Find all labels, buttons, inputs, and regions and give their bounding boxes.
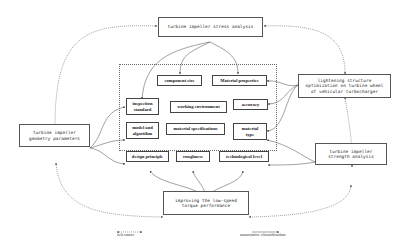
node-lightening-structure: lightening structure optimization on tur… xyxy=(298,74,391,98)
factor-inspection-standard: inspection standard xyxy=(126,98,159,115)
node-label-line: strength analysis xyxy=(328,154,374,159)
node-label-line: of vehicular turbocharger xyxy=(311,89,378,94)
factor-label: technological level xyxy=(226,154,262,160)
factor-material-type: material type xyxy=(233,123,267,140)
node-label-line: torque performance xyxy=(182,203,230,208)
factor-label-line: standard xyxy=(134,107,152,113)
factor-label-line: type xyxy=(246,132,254,138)
diagram-canvas: turbine impeller stress analysis lighten… xyxy=(0,0,407,248)
factor-label-line: algorithm xyxy=(133,131,152,137)
node-stress-analysis: turbine impeller stress analysis xyxy=(158,17,263,37)
node-geometry-parameters: turbine impeller geometry parameters xyxy=(19,124,90,147)
node-label-line: geometry parameters xyxy=(29,136,80,141)
factor-model-algorithm: model and algorithm xyxy=(126,122,159,139)
factor-material-specifications: material specifications xyxy=(166,123,225,135)
factor-working-environment: working environment xyxy=(170,101,227,113)
node-strength-analysis: turbine impeller strength analysis xyxy=(315,143,387,165)
factor-label: design principle xyxy=(132,154,163,160)
factor-label: accuracy xyxy=(242,102,260,108)
factor-component-size: component size xyxy=(157,75,202,86)
factor-label: component size xyxy=(165,78,195,84)
factor-material-properties: Material properties xyxy=(212,75,267,86)
node-label: turbine impeller stress analysis xyxy=(168,24,254,29)
factor-label: Material properties xyxy=(220,78,258,84)
node-torque-performance: improving the low-speed torque performan… xyxy=(163,191,249,215)
factor-accuracy: accuracy xyxy=(233,99,268,110)
factor-design-principle: design principle xyxy=(126,151,169,162)
factor-label: working environment xyxy=(177,104,219,110)
factor-label: roughness xyxy=(183,154,203,160)
factor-label: material specifications xyxy=(173,126,217,132)
factor-roughness: roughness xyxy=(176,151,210,162)
legend-relevance-label: relevance xyxy=(117,232,135,237)
factor-technological-level: technological level xyxy=(219,151,269,162)
legend-associative-label: associative classification xyxy=(240,232,286,237)
